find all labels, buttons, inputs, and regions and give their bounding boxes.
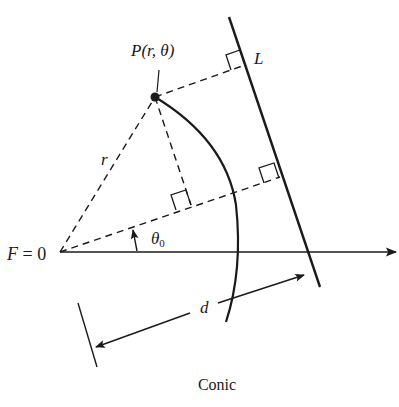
radius-label: r: [101, 150, 108, 169]
point-p-leader: [157, 70, 159, 92]
projection-p-to-ray: [155, 97, 191, 205]
right-angle-mark-bottom: [171, 190, 191, 210]
d-tick-left: [78, 303, 97, 367]
conic-diagram: P(r, θ) L r F = 0 θ0 d Conic: [0, 0, 399, 407]
focus-label: F = 0: [6, 244, 46, 264]
point-label: P(r, θ): [130, 41, 175, 60]
right-angle-mark-middle: [259, 163, 279, 183]
directrix-label: L: [253, 49, 263, 68]
figure-caption: Conic: [198, 376, 236, 393]
d-arrow-left: [96, 313, 190, 347]
angle-arrow: [133, 230, 137, 251]
d-arrow-right: [218, 275, 304, 303]
distance-label: d: [200, 298, 209, 317]
angle-label: θ0: [151, 229, 165, 249]
radius-line: [60, 97, 155, 252]
theta0-ray: [60, 177, 280, 252]
conic-curve: [155, 97, 238, 322]
point-p: [151, 93, 160, 102]
